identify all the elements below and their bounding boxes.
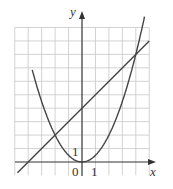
y-axis [79, 11, 85, 176]
y-axis-label: y [68, 4, 76, 19]
line-curve [17, 41, 149, 173]
y-tick-1-label: 1 [72, 144, 79, 159]
graph: y x 0 1 1 [0, 0, 173, 189]
x-axis-label: x [149, 164, 156, 179]
x-tick-1-label: 1 [91, 164, 98, 179]
origin-label: 0 [72, 164, 79, 179]
